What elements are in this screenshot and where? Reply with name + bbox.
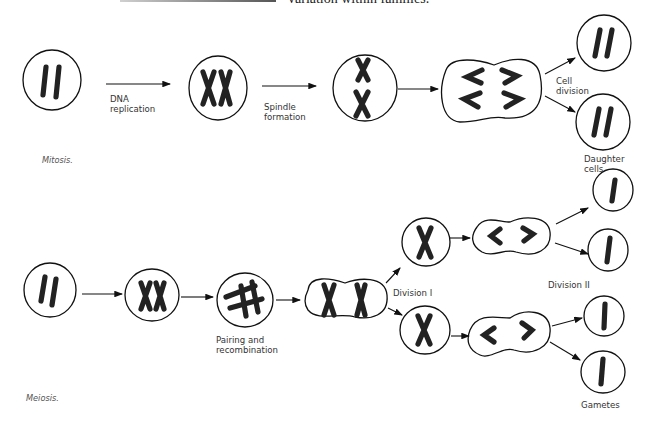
gamete-2 bbox=[588, 229, 628, 271]
gamete-1 bbox=[593, 169, 633, 211]
arrow-division-1-bottom bbox=[388, 308, 402, 315]
label-gametes: Gametes bbox=[581, 400, 620, 410]
mitosis-row bbox=[23, 15, 631, 150]
arrow-gamete-3 bbox=[552, 318, 582, 326]
gamete-3 bbox=[584, 296, 624, 336]
meiosis-secondary-cell-b bbox=[400, 306, 450, 354]
gamete-4 bbox=[581, 351, 625, 393]
caption-meiosis: Meiosis. bbox=[26, 393, 59, 403]
meiosis-pairing-cell bbox=[217, 273, 273, 327]
cell-division-diagram bbox=[0, 0, 660, 429]
mitosis-daughter-cell-1 bbox=[577, 15, 631, 71]
caption-mitosis: Mitosis. bbox=[42, 155, 73, 165]
label-pairing-recombination: Pairing and recombination bbox=[216, 335, 278, 355]
label-dna-replication: DNA replication bbox=[110, 94, 155, 114]
label-daughter-cells: Daughter cells bbox=[584, 154, 624, 174]
meiosis-replicated-cell bbox=[125, 269, 179, 321]
meiosis-division-2-cell-b bbox=[468, 312, 550, 356]
arrow-gamete-1 bbox=[556, 208, 588, 224]
label-division-1: Division I bbox=[393, 288, 432, 298]
label-division-2: Division II bbox=[548, 280, 590, 290]
arrow-cell-division-bottom bbox=[545, 96, 575, 112]
meiosis-parent-cell bbox=[24, 263, 76, 317]
mitosis-daughter-cell-2 bbox=[576, 94, 630, 150]
mitosis-parent-cell bbox=[23, 50, 81, 110]
meiosis-row bbox=[24, 169, 633, 393]
meiosis-secondary-cell-a bbox=[402, 218, 450, 266]
meiosis-division-1-cell bbox=[305, 279, 387, 318]
label-spindle-formation: Spindle formation bbox=[264, 102, 306, 122]
arrow-gamete-2 bbox=[555, 243, 588, 254]
mitosis-replicated-cell bbox=[189, 56, 247, 120]
meiosis-division-2-cell-a bbox=[473, 218, 550, 254]
label-cell-division: Cell division bbox=[556, 76, 589, 96]
arrow-division-1-top bbox=[386, 268, 400, 283]
mitosis-anaphase-cell bbox=[442, 59, 542, 122]
arrow-gamete-4 bbox=[550, 342, 580, 360]
mitosis-metaphase-cell bbox=[333, 55, 397, 121]
arrow-cell-division-top bbox=[545, 58, 575, 74]
